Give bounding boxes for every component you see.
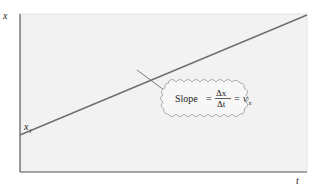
- fraction-numerator: Δx: [216, 88, 227, 98]
- position-time-diagram: x t x i Slope = Δx Δt = v x: [0, 0, 322, 187]
- velocity-symbol: v: [243, 93, 248, 104]
- intercept-subscript: i: [30, 127, 32, 134]
- equals-sign-2: =: [234, 93, 240, 104]
- velocity-subscript: x: [248, 99, 252, 106]
- intercept-label: x: [23, 121, 29, 132]
- y-axis-label: x: [2, 10, 8, 21]
- slope-label: Slope: [175, 93, 198, 104]
- x-axis-label: t: [296, 175, 299, 186]
- equals-sign-1: =: [206, 93, 212, 104]
- fraction-denominator: Δt: [217, 99, 226, 109]
